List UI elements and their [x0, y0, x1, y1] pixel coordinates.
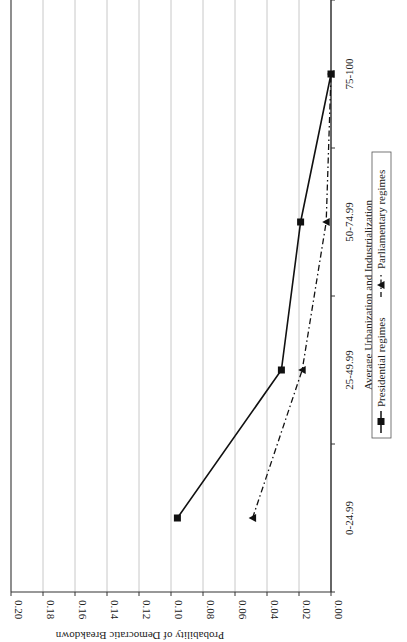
legend-presidential-label: Presidential regimes	[375, 317, 387, 407]
value-tick-label: 0.14	[109, 600, 121, 620]
value-tick-label: 0.10	[173, 600, 185, 620]
value-axis-ticks: 0.200.180.160.140.120.100.080.060.040.02…	[11, 592, 345, 620]
parliamentary-data-point	[249, 514, 257, 522]
value-tick-label: 0.12	[141, 600, 153, 619]
parliamentary-data-point	[322, 218, 330, 226]
value-tick-label: 0.08	[205, 600, 217, 620]
value-tick-label: 0.16	[77, 600, 89, 620]
presidential-markers	[174, 71, 335, 522]
value-axis-title: Probability of Democratic Breakdown	[55, 630, 224, 642]
presidential-series-line	[177, 74, 331, 518]
category-tick-label: 75-100	[343, 58, 355, 90]
value-tick-label: 0.00	[333, 600, 345, 620]
legend: Presidential regimes Parliamentary regim…	[372, 152, 391, 438]
gridlines	[43, 0, 299, 592]
presidential-data-point	[278, 367, 285, 374]
value-tick-label: 0.20	[13, 600, 25, 620]
presidential-data-point	[297, 219, 304, 226]
category-axis-ticks: 0-24.9925-49.9950-74.9975-100	[331, 0, 355, 592]
chart-canvas: 0.200.180.160.140.120.100.080.060.040.02…	[0, 0, 407, 642]
presidential-legend-marker	[378, 418, 385, 425]
presidential-data-point	[174, 515, 181, 522]
value-tick-label: 0.04	[269, 600, 281, 620]
category-tick-label: 50-74.99	[343, 202, 355, 242]
value-tick-label: 0.06	[237, 600, 249, 620]
category-tick-label: 0-24.99	[343, 501, 355, 535]
category-tick-label: 25-49.99	[343, 350, 355, 390]
value-tick-label: 0.18	[45, 600, 57, 620]
legend-parliamentary-label: Parliamentary regimes	[375, 170, 387, 269]
value-tick-label: 0.02	[301, 600, 313, 619]
